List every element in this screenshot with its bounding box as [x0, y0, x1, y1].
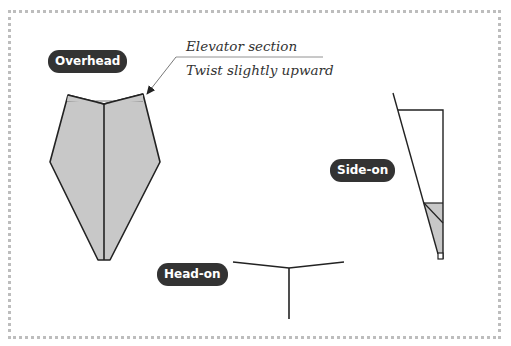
- side-on-tail-square: [438, 253, 443, 259]
- annotation-note: Twist slightly upward: [186, 62, 334, 78]
- overhead-label: Overhead: [48, 50, 127, 73]
- side-on-glider: [393, 93, 443, 259]
- side-on-shaded-section: [424, 203, 443, 253]
- side-on-nose-edge: [393, 93, 438, 254]
- annotation-title: Elevator section: [186, 38, 297, 54]
- overhead-glider: [50, 94, 160, 260]
- annotation-arrow: [147, 57, 176, 94]
- head-on-wings: [233, 262, 344, 268]
- overhead-glider-body: [50, 94, 160, 260]
- head-on-glider: [233, 262, 344, 319]
- side-on-label: Side-on: [330, 159, 395, 182]
- head-on-label: Head-on: [157, 263, 228, 286]
